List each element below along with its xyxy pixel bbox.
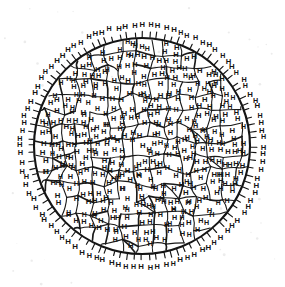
h-symbol: H: [92, 196, 98, 205]
h-symbol: H: [218, 184, 223, 193]
h-symbol: H: [187, 231, 192, 238]
scan-speck: [211, 123, 212, 124]
h-symbol-exterior: H: [140, 20, 146, 29]
h-symbol: H: [115, 213, 120, 222]
scan-speck: [250, 232, 251, 233]
scan-speck: [120, 41, 122, 43]
h-symbol: H: [220, 140, 225, 148]
h-symbol: H: [151, 203, 156, 210]
h-symbol-exterior: H: [20, 158, 25, 167]
h-symbol: H: [114, 85, 119, 92]
h-symbol: H: [111, 115, 116, 123]
h-symbol: H: [183, 188, 189, 197]
h-symbol: H: [138, 90, 144, 99]
h-symbol: H: [109, 55, 114, 62]
h-symbol: H: [108, 198, 113, 207]
h-symbol: H: [162, 48, 167, 56]
h-symbol: H: [130, 39, 135, 48]
radial-stem: [127, 254, 128, 260]
h-symbol: H: [175, 150, 180, 157]
h-symbol: H: [58, 173, 63, 180]
h-symbol: H: [157, 102, 162, 111]
scan-speck: [250, 39, 251, 40]
h-symbol: H: [157, 159, 163, 168]
h-symbol-exterior: H: [78, 39, 83, 47]
h-symbol: H: [171, 185, 176, 192]
scan-speck: [257, 46, 258, 47]
h-symbol-exterior: H: [87, 33, 92, 41]
h-symbol: H: [136, 208, 142, 217]
h-symbol: H: [225, 170, 230, 179]
h-symbol: H: [70, 108, 75, 115]
h-symbol-exterior: H: [148, 21, 153, 29]
h-symbol: H: [212, 128, 217, 135]
h-symbol: H: [140, 141, 146, 150]
h-symbol: H: [66, 209, 71, 216]
h-symbol: H: [113, 225, 118, 234]
h-symbol: H: [95, 140, 100, 147]
h-symbol: H: [148, 176, 153, 183]
h-symbol: H: [69, 130, 74, 137]
scan-speck: [256, 237, 259, 240]
h-symbol: H: [145, 165, 150, 174]
h-symbol: H: [110, 94, 115, 103]
h-symbol: H: [121, 222, 127, 231]
h-symbol: H: [141, 200, 147, 209]
h-symbol: H: [219, 74, 225, 83]
h-symbol: H: [183, 72, 188, 79]
h-symbol: H: [232, 179, 238, 188]
h-symbol: H: [101, 205, 106, 214]
scan-speck: [260, 222, 261, 223]
h-symbol: H: [115, 136, 120, 145]
h-symbol: H: [164, 142, 169, 149]
h-symbol-exterior: H: [218, 233, 223, 242]
h-symbol: H: [145, 92, 151, 101]
h-symbol: H: [173, 172, 178, 179]
h-symbol: H: [84, 165, 89, 174]
h-symbol: H: [191, 52, 197, 61]
h-symbol: H: [147, 239, 152, 248]
circular-h-network-diagram: HHHHHHHHHHHHHHHHHHHHHHHHHHHHHHHHHHHHHHHH…: [0, 0, 285, 287]
h-symbol-exterior: H: [71, 41, 76, 50]
h-symbol-exterior: H: [19, 167, 24, 176]
h-symbol: H: [68, 172, 73, 181]
scan-speck: [24, 41, 27, 44]
h-symbol: H: [168, 128, 173, 137]
h-symbol: H: [135, 112, 140, 121]
h-symbol: H: [40, 148, 46, 157]
h-symbol: H: [174, 106, 179, 113]
h-symbol: H: [183, 154, 189, 163]
h-symbol: H: [150, 53, 155, 62]
h-symbol: H: [145, 45, 150, 52]
h-symbol: H: [95, 124, 100, 131]
scan-speck: [31, 260, 33, 262]
h-symbol-exterior: H: [200, 39, 205, 46]
h-symbol: H: [182, 135, 188, 144]
h-symbol: H: [160, 195, 165, 202]
h-symbol-exterior: H: [54, 227, 59, 236]
h-symbol: H: [176, 87, 181, 96]
h-symbol: H: [67, 185, 72, 192]
h-symbol: H: [203, 157, 208, 166]
h-symbol: H: [160, 181, 166, 190]
h-symbol: H: [150, 227, 155, 236]
h-symbol: H: [89, 221, 94, 230]
h-symbol: H: [220, 102, 225, 109]
scan-speck: [274, 258, 275, 259]
h-symbol: H: [74, 91, 79, 98]
h-symbol: H: [136, 160, 141, 169]
h-symbol: H: [111, 105, 116, 113]
scan-speck: [4, 37, 6, 39]
h-symbol: H: [156, 121, 161, 129]
h-symbol: H: [43, 156, 49, 165]
scan-speck: [64, 62, 65, 63]
h-symbol: H: [158, 211, 163, 219]
h-symbol: H: [164, 40, 169, 47]
h-symbol: H: [105, 225, 111, 234]
h-symbol: H: [205, 79, 210, 88]
h-symbol-exterior: H: [39, 210, 45, 219]
scan-speck: [57, 11, 58, 12]
h-symbol: H: [163, 56, 168, 65]
h-symbol: H: [103, 110, 108, 118]
scan-speck: [158, 50, 161, 53]
